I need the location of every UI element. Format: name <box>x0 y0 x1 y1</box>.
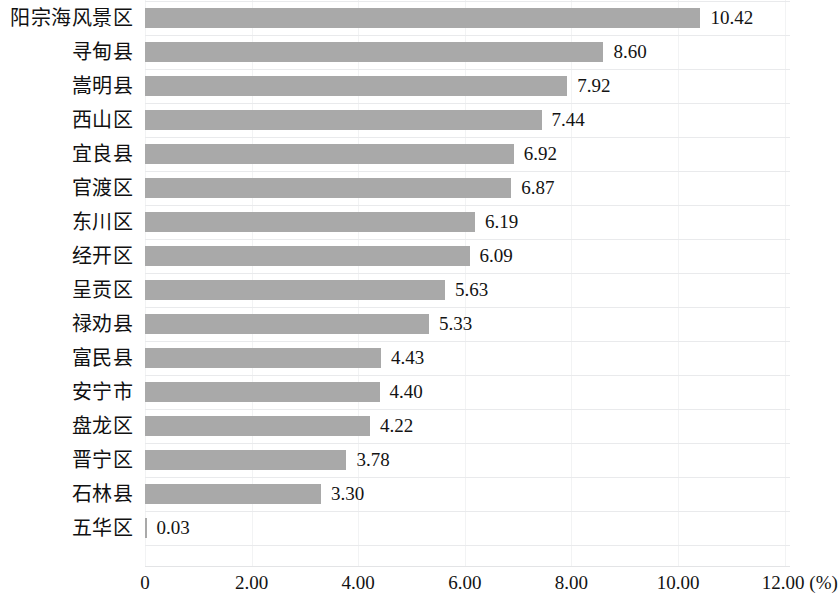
bar <box>145 416 370 436</box>
bar-row: 西山区7.44 <box>0 103 836 137</box>
x-axis-tick-label: 10.00 <box>657 572 700 594</box>
gridline-horizontal <box>145 545 790 546</box>
bar <box>145 280 445 300</box>
category-label: 经开区 <box>0 239 133 273</box>
bar-row: 阳宗海风景区10.42 <box>0 1 836 35</box>
category-label: 西山区 <box>0 103 133 137</box>
category-label: 安宁市 <box>0 375 133 409</box>
category-label: 禄劝县 <box>0 307 133 341</box>
bar <box>145 8 700 28</box>
bar-value-label: 4.22 <box>380 409 413 443</box>
category-label: 宜良县 <box>0 137 133 171</box>
category-label: 石林县 <box>0 477 133 511</box>
x-axis-tick-label: 2.00 <box>235 572 268 594</box>
bar-value-label: 5.33 <box>439 307 472 341</box>
bar <box>145 110 542 130</box>
bar <box>145 314 429 334</box>
bar-value-label: 0.03 <box>157 511 190 545</box>
bar-row: 安宁市4.40 <box>0 375 836 409</box>
category-label: 阳宗海风景区 <box>0 1 133 35</box>
bar-row: 呈贡区5.63 <box>0 273 836 307</box>
category-label: 呈贡区 <box>0 273 133 307</box>
x-axis-tick-label: 0 <box>140 572 150 594</box>
x-axis-line <box>145 566 790 567</box>
bar-row: 官渡区6.87 <box>0 171 836 205</box>
bar <box>145 382 380 402</box>
bar <box>145 178 511 198</box>
bar-row: 禄劝县5.33 <box>0 307 836 341</box>
bar-value-label: 3.78 <box>356 443 389 477</box>
bar-value-label: 7.92 <box>577 69 610 103</box>
x-axis-tick-label: 6.00 <box>448 572 481 594</box>
bar <box>145 42 603 62</box>
bar-value-label: 6.19 <box>485 205 518 239</box>
bar-value-label: 10.42 <box>710 1 753 35</box>
bar-row: 晋宁区3.78 <box>0 443 836 477</box>
category-label: 富民县 <box>0 341 133 375</box>
bar <box>145 212 475 232</box>
bar-row: 石林县3.30 <box>0 477 836 511</box>
bar-row: 富民县4.43 <box>0 341 836 375</box>
bar-row: 经开区6.09 <box>0 239 836 273</box>
bar <box>145 144 514 164</box>
bar-row: 盘龙区4.22 <box>0 409 836 443</box>
bar-row: 寻甸县8.60 <box>0 35 836 69</box>
category-label: 东川区 <box>0 205 133 239</box>
bar <box>145 348 381 368</box>
category-label: 嵩明县 <box>0 69 133 103</box>
bar <box>145 76 567 96</box>
x-axis: 02.004.006.008.0010.0012.00 (%) <box>0 566 836 602</box>
x-axis-tick-label: 4.00 <box>342 572 375 594</box>
bar-value-label: 4.40 <box>390 375 423 409</box>
bar-value-label: 3.30 <box>331 477 364 511</box>
bar-row: 东川区6.19 <box>0 205 836 239</box>
bar-value-label: 7.44 <box>552 103 585 137</box>
bar-value-label: 4.43 <box>391 341 424 375</box>
bar-row: 嵩明县7.92 <box>0 69 836 103</box>
bar-value-label: 6.87 <box>521 171 554 205</box>
bar <box>145 484 321 504</box>
bar-value-label: 8.60 <box>613 35 646 69</box>
bar-row: 宜良县6.92 <box>0 137 836 171</box>
category-label: 五华区 <box>0 511 133 545</box>
category-label: 官渡区 <box>0 171 133 205</box>
x-axis-tick-label: 12.00 (%) <box>762 572 838 594</box>
category-label: 盘龙区 <box>0 409 133 443</box>
category-label: 寻甸县 <box>0 35 133 69</box>
bar <box>145 518 147 538</box>
bar-value-label: 6.92 <box>524 137 557 171</box>
bar-value-label: 5.63 <box>455 273 488 307</box>
bar-row: 五华区0.03 <box>0 511 836 545</box>
bar <box>145 246 470 266</box>
x-axis-tick-label: 8.00 <box>555 572 588 594</box>
bar <box>145 450 346 470</box>
category-label: 晋宁区 <box>0 443 133 477</box>
bar-value-label: 6.09 <box>480 239 513 273</box>
